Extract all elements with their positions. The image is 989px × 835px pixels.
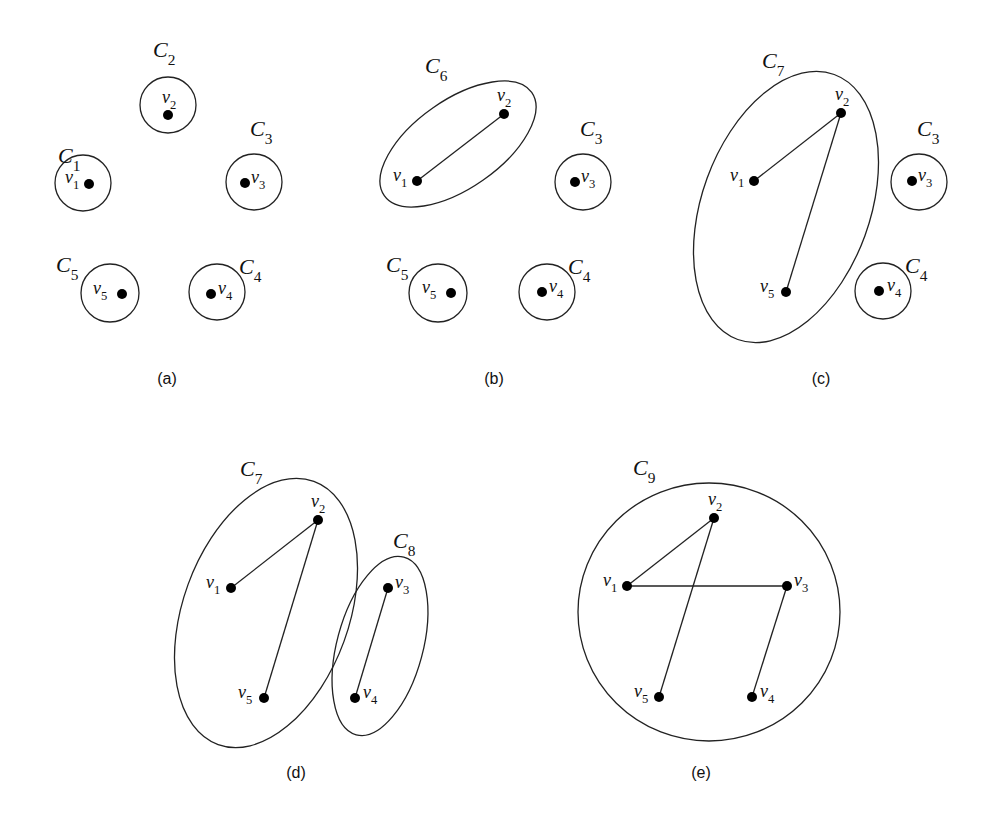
vertex-v5 — [781, 287, 791, 297]
vertex-label-v2: v2 — [311, 491, 325, 516]
vertex-v4 — [206, 289, 216, 299]
vertex-label-v3: v3 — [581, 166, 595, 191]
vertex-v3 — [782, 581, 792, 591]
vertex-v5 — [259, 693, 269, 703]
cluster-label-C6: C6 — [425, 53, 448, 84]
vertex-v1 — [84, 179, 94, 189]
cluster-label-C7: C7 — [762, 48, 785, 79]
cluster-boundary-C5 — [81, 264, 139, 322]
vertex-v3 — [383, 583, 393, 593]
vertex-label-v2: v2 — [835, 84, 849, 109]
panel-caption: (a) — [157, 370, 177, 387]
cluster-label-C5: C5 — [386, 252, 409, 283]
cluster-label-C7: C7 — [240, 456, 263, 487]
vertex-v2 — [313, 515, 323, 525]
vertex-label-v5: v5 — [422, 277, 436, 302]
vertex-label-v2: v2 — [497, 85, 511, 110]
edge-v1-v2 — [417, 114, 504, 181]
vertex-label-v5: v5 — [238, 682, 252, 707]
vertex-label-v3: v3 — [918, 165, 932, 190]
vertex-v3 — [240, 178, 250, 188]
vertex-v4 — [874, 286, 884, 296]
vertex-v4 — [747, 692, 757, 702]
edge-v2-v5 — [264, 520, 318, 698]
vertex-v5 — [117, 289, 127, 299]
cluster-boundary-C7 — [659, 46, 913, 368]
cluster-boundary-C6 — [359, 56, 557, 231]
vertex-v2 — [709, 513, 719, 523]
vertex-label-v1: v1 — [206, 572, 220, 597]
edge-v3-v4 — [355, 588, 388, 698]
vertex-label-v1: v1 — [603, 570, 617, 595]
vertex-label-v5: v5 — [634, 681, 648, 706]
panel-e: C9v2v1v3v5v4(e) — [578, 455, 840, 781]
vertex-v5 — [446, 288, 456, 298]
panel-a: C1C2C3C4C5v1v2v3v4v5(a) — [55, 37, 282, 387]
vertex-label-v2: v2 — [708, 489, 722, 514]
edge-v1-v2 — [231, 520, 318, 588]
vertex-v4 — [537, 287, 547, 297]
edge-v1-v2 — [627, 518, 714, 586]
vertex-label-v5: v5 — [760, 276, 774, 301]
cluster-boundary-C4 — [189, 264, 245, 320]
cluster-label-C3: C3 — [250, 116, 273, 147]
vertex-v3 — [570, 177, 580, 187]
vertex-label-v3: v3 — [794, 570, 808, 595]
panel-caption: (b) — [484, 370, 504, 387]
cluster-boundary-C7 — [140, 453, 392, 773]
vertex-label-v4: v4 — [218, 278, 233, 303]
vertex-v4 — [350, 693, 360, 703]
vertex-v1 — [622, 581, 632, 591]
vertex-label-v5: v5 — [93, 278, 107, 303]
cluster-label-C4: C4 — [568, 254, 591, 285]
vertex-label-v4: v4 — [760, 681, 775, 706]
panel-b: C6C3C4C5v1v2v3v4v5(b) — [359, 53, 611, 387]
panel-c: C7C3C4v1v2v5v3v4(c) — [659, 46, 947, 387]
clustering-diagram: C1C2C3C4C5v1v2v3v4v5(a)C6C3C4C5v1v2v3v4v… — [0, 0, 989, 835]
vertex-v3 — [907, 176, 917, 186]
panel-caption: (d) — [286, 764, 306, 781]
cluster-label-C8: C8 — [393, 528, 416, 559]
vertex-v1 — [412, 176, 422, 186]
vertex-v5 — [654, 692, 664, 702]
edge-v1-v2 — [754, 113, 841, 181]
cluster-label-C9: C9 — [633, 455, 656, 486]
vertex-label-v4: v4 — [549, 276, 564, 301]
vertex-v2 — [836, 108, 846, 118]
edge-v3-v4 — [752, 586, 787, 697]
panel-caption: (e) — [691, 764, 711, 781]
vertex-v1 — [226, 583, 236, 593]
edge-v2-v5 — [659, 518, 714, 697]
vertex-label-v2: v2 — [162, 87, 176, 112]
diagram-canvas: C1C2C3C4C5v1v2v3v4v5(a)C6C3C4C5v1v2v3v4v… — [0, 0, 989, 835]
cluster-label-C5: C5 — [56, 252, 79, 283]
cluster-boundary-C8 — [315, 546, 446, 746]
panel-caption: (c) — [812, 370, 831, 387]
cluster-label-C3: C3 — [580, 116, 603, 147]
vertex-label-v1: v1 — [393, 165, 407, 190]
cluster-label-C3: C3 — [917, 116, 940, 147]
cluster-boundary-C5 — [409, 264, 467, 322]
vertex-label-v3: v3 — [251, 167, 265, 192]
vertex-label-v4: v4 — [363, 682, 378, 707]
vertex-label-v1: v1 — [730, 165, 744, 190]
panel-d: C7C8v1v2v5v3v4(d) — [140, 453, 445, 781]
vertex-v2 — [499, 109, 509, 119]
vertex-label-v3: v3 — [395, 572, 409, 597]
edge-v2-v5 — [786, 113, 841, 292]
vertex-v1 — [749, 176, 759, 186]
cluster-label-C2: C2 — [153, 37, 175, 68]
vertex-label-v4: v4 — [887, 275, 902, 300]
